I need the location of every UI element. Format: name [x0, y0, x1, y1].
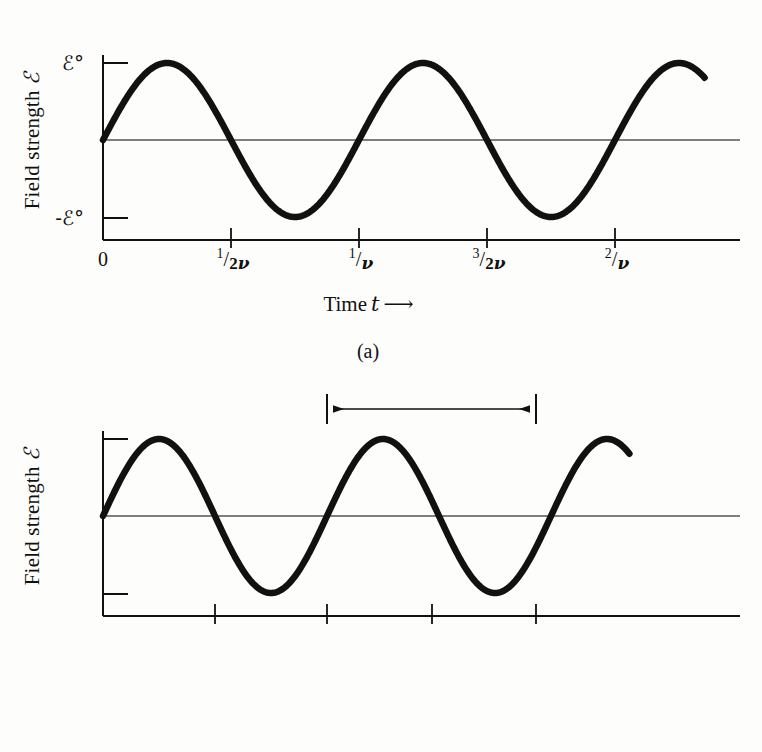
y-axis-title: Field strength ℰ [20, 407, 45, 627]
arrow-right-icon: ⟶ [383, 292, 412, 316]
y-axis-title-symbol: ℰ [20, 448, 44, 461]
x-tick-label-2: 1/ν [349, 246, 373, 274]
x-tick-label-origin: 0 [98, 248, 108, 271]
x-tick-label-4: 2/ν [605, 246, 629, 274]
figure-root: Field strength ℰ ℰ° -ℰ° 0 1/2ν 1/ν 3/2ν … [0, 0, 762, 752]
y-axis-title-text: Field strength [20, 90, 44, 209]
wavelength-span-annotation [327, 394, 536, 424]
panel-b: Field strength ℰ λ ℰ° -ℰ° 0 λ/2 λ 3λ/2 2… [0, 376, 762, 752]
x-tick-label-1: 1/2ν [217, 246, 250, 274]
x-axis-title-text: Time [323, 292, 367, 316]
y-tick-label-top: ℰ° [28, 51, 84, 75]
panel-a: Field strength ℰ ℰ° -ℰ° 0 1/2ν 1/ν 3/2ν … [0, 0, 762, 376]
subfigure-caption-a: (a) [357, 340, 379, 363]
x-tick-label-3: 3/2ν [473, 246, 506, 274]
y-axis-title-text: Field strength [20, 466, 44, 585]
x-axis-title-var: t [367, 292, 383, 316]
panel-b-plot [0, 376, 762, 752]
y-tick-label-bottom: -ℰ° [20, 206, 84, 230]
x-axis-title: Timet⟶ [323, 292, 412, 317]
panel-a-plot [0, 0, 762, 376]
